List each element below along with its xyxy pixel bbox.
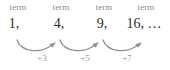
difference-arrow-2 <box>60 40 99 51</box>
increment-label-3: +7 <box>110 52 144 64</box>
increment-label-2: +5 <box>68 52 102 64</box>
sequence-difference-diagram: term term term term 1, 4, 9, 16, … +3 +5… <box>0 0 170 70</box>
term-label-3: term <box>82 1 126 13</box>
term-label-1: term <box>0 1 40 13</box>
difference-arrow-2-head <box>92 43 98 48</box>
difference-arrow-1 <box>17 40 56 51</box>
term-label-4: term <box>124 1 168 13</box>
increment-label-1: +3 <box>25 52 59 64</box>
difference-arrow-3 <box>103 40 142 51</box>
sequence-term-value-4: 16, … <box>116 15 170 33</box>
difference-arrow-2-curve <box>60 40 95 51</box>
sequence-term-value-1: 1, <box>0 15 36 33</box>
difference-arrow-3-head <box>135 43 141 48</box>
term-label-2: term <box>39 1 83 13</box>
sequence-term-value-2: 4, <box>37 15 81 33</box>
difference-arrow-1-head <box>49 43 55 48</box>
difference-arrow-3-curve <box>103 40 138 51</box>
difference-arrow-1-curve <box>17 40 52 51</box>
